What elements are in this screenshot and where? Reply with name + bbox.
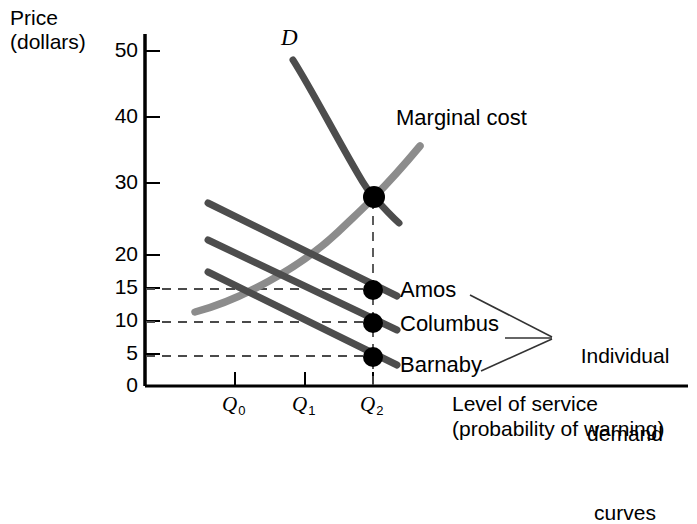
curve-label-amos: Amos [400, 277, 456, 303]
x-tick-label-q1: Q1 [292, 392, 314, 417]
marker-equilibrium [363, 186, 385, 208]
x-tick-q0-letter: Q [222, 392, 237, 416]
marker-amos-quantity [363, 280, 383, 300]
x-tick-q1-subscript: 1 [308, 403, 315, 418]
marker-columbus-quantity [363, 313, 383, 333]
y-axis-title-line1: Price [10, 6, 58, 31]
annotation-individual-demand-curves: Individual demand curves [560, 290, 690, 524]
curve-label-columbus: Columbus [400, 311, 499, 337]
annotation-line1: Individual [560, 343, 690, 369]
y-tick-label-0: 0 [106, 373, 138, 398]
y-tick-label-40: 40 [106, 104, 138, 129]
x-tick-q0-subscript: 0 [238, 403, 245, 418]
x-tick-q2-letter: Q [360, 392, 375, 416]
x-tick-label-q2: Q2 [360, 392, 382, 417]
y-tick-label-50: 50 [106, 38, 138, 63]
y-tick-label-15: 15 [106, 275, 138, 300]
marker-barnaby-quantity [363, 347, 383, 367]
x-tick-label-q0: Q0 [222, 392, 244, 417]
y-tick-label-5: 5 [106, 341, 138, 366]
y-tick-label-30: 30 [106, 170, 138, 195]
curve-label-barnaby: Barnaby [400, 352, 482, 378]
annotation-line2: demand [560, 421, 690, 447]
curve-label-d: D [281, 24, 298, 51]
y-axis-title-line2: (dollars) [10, 30, 86, 55]
curve-label-marginal-cost: Marginal cost [396, 105, 527, 131]
x-axis-ticks [235, 372, 373, 386]
x-tick-q1-letter: Q [292, 392, 307, 416]
y-tick-label-10: 10 [106, 308, 138, 333]
y-tick-label-20: 20 [106, 242, 138, 267]
annotation-line3: curves [560, 500, 690, 524]
y-axis-ticks [145, 51, 160, 354]
x-tick-q2-subscript: 2 [376, 403, 383, 418]
